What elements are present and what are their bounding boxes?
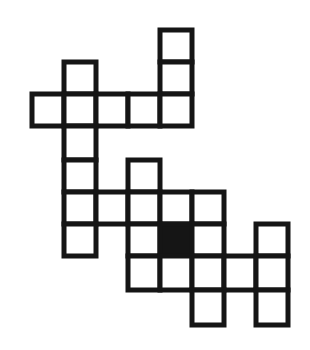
cell-r7-c7[interactable] xyxy=(256,256,288,290)
cell-r8-c7[interactable] xyxy=(256,290,288,325)
cell-r1-c4[interactable] xyxy=(160,62,192,94)
grid-canvas xyxy=(0,0,310,350)
cell-r5-c3[interactable] xyxy=(128,192,160,224)
cell-r4-c3[interactable] xyxy=(128,160,160,192)
puzzle-figure xyxy=(0,0,310,350)
cell-r7-c4[interactable] xyxy=(160,256,192,290)
cell-r7-c6[interactable] xyxy=(224,256,256,290)
cell-r2-c3[interactable] xyxy=(128,94,160,126)
cell-r6-c1[interactable] xyxy=(64,224,96,256)
cell-r6-c4[interactable] xyxy=(160,224,192,256)
cell-r1-c1[interactable] xyxy=(64,62,96,94)
cell-r0-c4[interactable] xyxy=(160,30,192,62)
cell-r2-c0[interactable] xyxy=(32,94,64,126)
cell-r2-c2[interactable] xyxy=(96,94,128,126)
cell-r5-c2[interactable] xyxy=(96,192,128,224)
cell-r3-c1[interactable] xyxy=(64,126,96,160)
cell-r7-c3[interactable] xyxy=(128,256,160,290)
cell-r8-c5[interactable] xyxy=(192,290,224,325)
cell-r7-c5[interactable] xyxy=(192,256,224,290)
cell-r5-c1[interactable] xyxy=(64,192,96,224)
cell-r6-c5[interactable] xyxy=(192,224,224,256)
cell-r5-c4[interactable] xyxy=(160,192,192,224)
cell-r2-c1[interactable] xyxy=(64,94,96,126)
cell-r6-c7[interactable] xyxy=(256,224,288,256)
cell-r2-c4[interactable] xyxy=(160,94,192,126)
cell-r6-c3[interactable] xyxy=(128,224,160,256)
cell-r4-c1[interactable] xyxy=(64,160,96,192)
cell-r5-c5[interactable] xyxy=(192,192,224,224)
